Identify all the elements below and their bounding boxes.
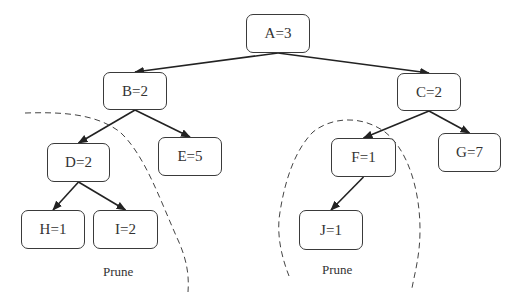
- edge-b-e: [135, 110, 190, 137]
- node-d: D=2: [47, 143, 110, 182]
- node-a: A=3: [246, 14, 310, 53]
- edge-b-d: [79, 110, 136, 143]
- node-b: B=2: [103, 72, 167, 110]
- edge-c-f: [364, 111, 430, 138]
- node-h: H=1: [21, 210, 85, 249]
- edge-f-j: [331, 177, 364, 210]
- edge-c-g: [429, 111, 470, 133]
- node-g: G=7: [438, 133, 501, 172]
- node-c: C=2: [397, 73, 461, 111]
- node-i: I=2: [93, 210, 158, 249]
- edge-d-h: [53, 182, 79, 210]
- edge-a-b: [135, 53, 278, 72]
- tree-diagram: A=3B=2C=2D=2E=5F=1G=7H=1I=2J=1 PrunePrun…: [0, 0, 522, 303]
- prune-label-2: Prune: [322, 262, 352, 278]
- prune-label-1: Prune: [103, 264, 133, 280]
- edge-a-c: [278, 53, 429, 73]
- node-f: F=1: [331, 138, 396, 177]
- node-e: E=5: [158, 137, 222, 176]
- edge-d-i: [79, 182, 126, 210]
- node-j: J=1: [299, 210, 363, 250]
